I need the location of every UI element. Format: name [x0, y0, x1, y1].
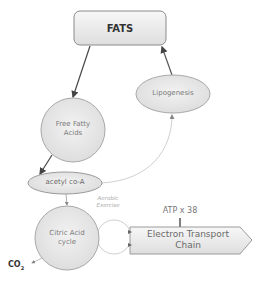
- aerobic-line2: Exercise: [90, 202, 126, 209]
- etc-line1: Electron Transport: [130, 229, 246, 240]
- free-fatty-acids-line2: Acids: [41, 129, 105, 138]
- citric-acid-cycle-label: Citric Acid cycle: [35, 229, 99, 247]
- etc-label: Electron Transport Chain: [130, 229, 246, 252]
- co2-label: CO2: [8, 260, 32, 271]
- fats-label: FATS: [74, 23, 166, 36]
- edge-citric-to-co2: [32, 258, 42, 263]
- co2-main: CO: [8, 260, 21, 269]
- etc-line2: Chain: [130, 240, 246, 251]
- aerobic-loop: [97, 220, 131, 254]
- edge-ffa-to-acetyl: [40, 155, 52, 174]
- lipogenesis-label: Lipogenesis: [136, 89, 210, 98]
- aerobic-exercise-label: Aerobic Exercise: [90, 195, 126, 209]
- atp-label: ATP x 38: [150, 206, 210, 216]
- acetyl-coa-label: acetyl co-A: [28, 178, 102, 187]
- edge-lipogenesis-to-fats: [162, 47, 172, 75]
- edge-acetyl-to-citric: [66, 194, 67, 205]
- aerobic-line1: Aerobic: [90, 195, 126, 202]
- citric-line1: Citric Acid: [35, 229, 99, 238]
- edge-fats-to-ffa: [73, 46, 90, 97]
- free-fatty-acids-line1: Free Fatty: [41, 120, 105, 129]
- free-fatty-acids-label: Free Fatty Acids: [41, 120, 105, 138]
- edge-acetyl-to-lipogenesis: [102, 115, 172, 183]
- citric-line2: cycle: [35, 238, 99, 247]
- co2-subscript: 2: [21, 265, 24, 271]
